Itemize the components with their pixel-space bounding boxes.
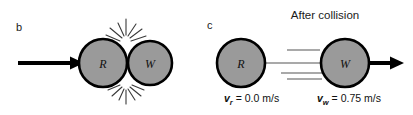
panel-b-group: W R [18, 19, 172, 104]
velocity-red-unit: m/s [262, 92, 279, 104]
ball-r-panel-b: R [79, 39, 127, 87]
velocity-red-value: 0.0 [245, 92, 260, 104]
ball-w-letter: W [145, 57, 156, 71]
ball-r-letter: R [98, 57, 107, 71]
panel-c-group: R W [217, 39, 404, 87]
ball-r-letter: R [236, 57, 245, 71]
ball-w-letter: W [340, 57, 351, 71]
ball-w-panel-c: W [321, 39, 369, 87]
ball-w-panel-b: W [128, 41, 172, 85]
velocity-white-unit: m/s [364, 92, 381, 104]
velocity-white-label: vw = 0.75 m/s [317, 93, 381, 107]
incoming-velocity-arrow [18, 57, 84, 70]
collision-figure: b c After collision [0, 0, 413, 115]
velocity-red-label: vr = 0.0 m/s [224, 93, 279, 107]
velocity-white-value: 0.75 [341, 92, 361, 104]
motion-lines-icon [265, 50, 322, 79]
impact-burst-top-icon [106, 19, 146, 41]
impact-burst-bottom-icon [108, 85, 144, 104]
ball-r-panel-c: R [217, 39, 265, 87]
